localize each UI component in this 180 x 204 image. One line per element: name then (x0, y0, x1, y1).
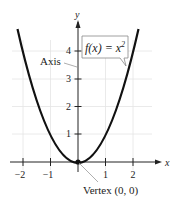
y-tick-label: 2 (66, 101, 71, 112)
parabola-chart: −2 −1 1 2 4 3 2 1 x y f(x) = x2 Axis Ver… (0, 0, 180, 204)
y-tick-label: 3 (66, 73, 71, 84)
function-label-box: f(x) = x2 (82, 36, 128, 66)
x-tick-label: 2 (131, 169, 136, 180)
x-tick-label: 1 (103, 169, 108, 180)
y-tick-label: 4 (66, 45, 71, 56)
vertex-annotation: Vertex (0, 0) (83, 184, 139, 197)
y-tick-label: 1 (66, 128, 71, 139)
y-axis-arrow-icon (76, 20, 81, 28)
x-tick-label: −1 (43, 169, 54, 180)
function-label: f(x) = x2 (85, 40, 125, 55)
axis-annotation: Axis (40, 55, 61, 67)
x-tick-label: −2 (15, 169, 26, 180)
y-axis-label: y (74, 9, 80, 20)
x-axis-label: x (164, 157, 170, 168)
vertex-leader-line (79, 163, 98, 182)
y-axis (75, 22, 82, 172)
axis-leader-line (64, 63, 77, 67)
x-axis-arrow-icon (155, 160, 162, 165)
chart-canvas: −2 −1 1 2 4 3 2 1 x y f(x) = x2 Axis Ver… (0, 0, 180, 204)
